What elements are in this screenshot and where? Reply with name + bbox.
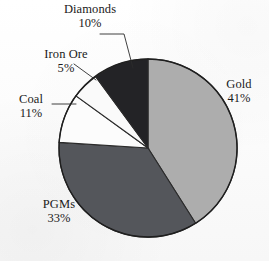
slice-label-diamonds: Diamonds 10% <box>47 3 133 30</box>
slice-label-diamonds-value: 10% <box>47 17 133 31</box>
slice-label-pgms: PGMs 33% <box>24 198 94 225</box>
slice-label-iron-ore: Iron Ore 5% <box>26 48 106 75</box>
slice-label-gold-value: 41% <box>214 92 264 106</box>
slice-label-coal-value: 11% <box>2 107 60 121</box>
slice-label-gold-name: Gold <box>214 78 264 92</box>
slice-label-iron-ore-name: Iron Ore <box>26 48 106 62</box>
slice-label-pgms-value: 33% <box>24 212 94 226</box>
slice-label-gold: Gold 41% <box>214 78 264 105</box>
slice-label-diamonds-name: Diamonds <box>47 3 133 17</box>
pie-chart-figure: Diamonds 10% Iron Ore 5% Coal 11% PGMs 3… <box>0 0 269 261</box>
slice-label-coal: Coal 11% <box>2 93 60 120</box>
slice-label-coal-name: Coal <box>2 93 60 107</box>
slice-label-pgms-name: PGMs <box>24 198 94 212</box>
slice-label-iron-ore-value: 5% <box>26 62 106 76</box>
